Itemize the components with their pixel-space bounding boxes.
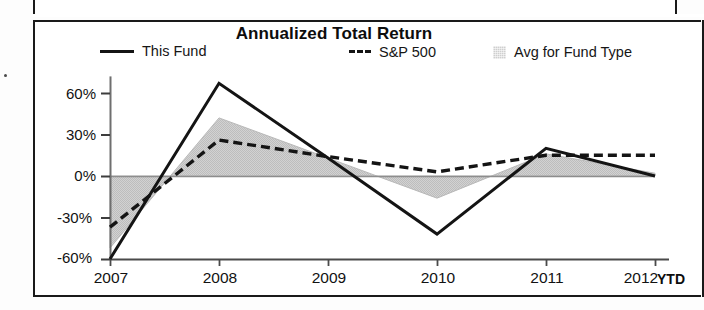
chart-legend: This Fund S&P 500 Avg for Fund Type [0, 43, 672, 65]
scan-artifact-dot [4, 74, 7, 77]
shaded-box-swatch-icon [493, 46, 506, 59]
y-tick-label-neg60: -60% [30, 249, 92, 266]
y-tick-label-60: 60% [34, 85, 96, 102]
legend-label-sp500: S&P 500 [379, 44, 436, 60]
dashed-line-swatch-icon [349, 50, 371, 53]
x-tick-label-2010: 2010 [403, 269, 473, 287]
legend-item-avg-fund-type: Avg for Fund Type [493, 44, 632, 60]
legend-item-this-fund: This Fund [100, 43, 206, 59]
frame-gap-spacer [33, 14, 704, 17]
x-tick-label-2011: 2011 [512, 269, 582, 287]
solid-line-swatch-icon [100, 50, 134, 53]
y-tick-label-0: 0% [34, 167, 96, 184]
x-axis-ytd-label: YTD [657, 271, 685, 287]
y-tick-label-30: 30% [34, 126, 96, 143]
chart-title: Annualized Total Return [0, 24, 668, 44]
legend-item-sp500: S&P 500 [349, 44, 436, 60]
chart-page: Annualized Total Return This Fund S&P 50… [0, 0, 704, 310]
x-tick-label-2007: 2007 [76, 269, 146, 287]
legend-label-this-fund: This Fund [142, 43, 206, 59]
x-tick-label-2008: 2008 [185, 269, 255, 287]
y-tick-label-neg30: -30% [30, 209, 92, 226]
x-tick-label-2009: 2009 [294, 269, 364, 287]
legend-label-avg-fund-type: Avg for Fund Type [514, 44, 632, 60]
